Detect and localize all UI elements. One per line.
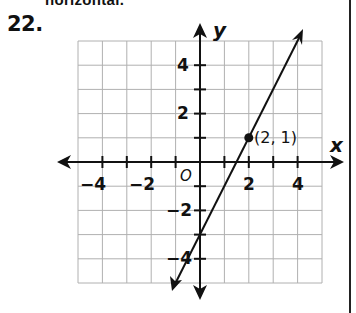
y-tick-label: 4 xyxy=(177,55,189,75)
x-axis-label: x xyxy=(329,133,344,157)
point-marker xyxy=(244,133,253,142)
x-tick-label: −4 xyxy=(80,174,106,194)
x-tick-label: 4 xyxy=(292,174,304,194)
origin-label: O xyxy=(180,167,192,185)
coordinate-graph: y x O (2, 1) −4 −2 2 4 4 2 −2 −4 xyxy=(0,0,356,313)
y-tick-label: 2 xyxy=(177,103,189,123)
y-axis-label: y xyxy=(213,18,227,42)
y-tick-label: −2 xyxy=(166,200,192,220)
y-tick-label: −4 xyxy=(166,248,192,268)
x-tick-label: 2 xyxy=(243,174,255,194)
point-label: (2, 1) xyxy=(254,128,297,147)
x-tick-label: −2 xyxy=(129,174,155,194)
